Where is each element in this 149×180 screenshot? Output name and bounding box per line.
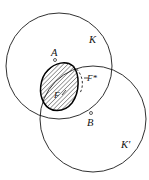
label-circle-k-prime: K' [120, 139, 131, 150]
label-point-a: A [50, 47, 58, 58]
circles-diagram: K K' A B F F* [0, 0, 149, 180]
point-marker-b [90, 112, 93, 115]
label-region-f-star: F* [86, 73, 97, 83]
region-f-hatched [41, 63, 79, 111]
figure-container: K K' A B F F* [0, 0, 149, 180]
label-circle-k: K [88, 34, 97, 45]
label-point-b: B [87, 117, 94, 128]
label-region-f: F [53, 90, 60, 100]
point-marker-a [54, 59, 57, 62]
